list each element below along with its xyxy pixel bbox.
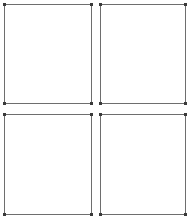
panel-corner-br <box>184 213 187 216</box>
panel-corner-bl <box>99 102 102 105</box>
panel-corner-bl <box>3 102 6 105</box>
panel-corner-bl <box>99 213 102 216</box>
panel-corner-tr <box>90 113 93 116</box>
panel-corner-bl <box>3 213 6 216</box>
panel-corner-tl <box>99 113 102 116</box>
panel-corner-tl <box>3 113 6 116</box>
panel-corner-br <box>90 213 93 216</box>
panel-bottom-left <box>4 114 92 215</box>
panel-top-left <box>4 4 92 104</box>
panel-corner-tr <box>90 3 93 6</box>
panel-corner-tl <box>3 3 6 6</box>
panel-top-right <box>100 4 186 104</box>
panel-bottom-right <box>100 114 186 215</box>
panel-corner-br <box>184 102 187 105</box>
panel-corner-tl <box>99 3 102 6</box>
panel-corner-tr <box>184 3 187 6</box>
panel-corner-tr <box>184 113 187 116</box>
panel-corner-br <box>90 102 93 105</box>
